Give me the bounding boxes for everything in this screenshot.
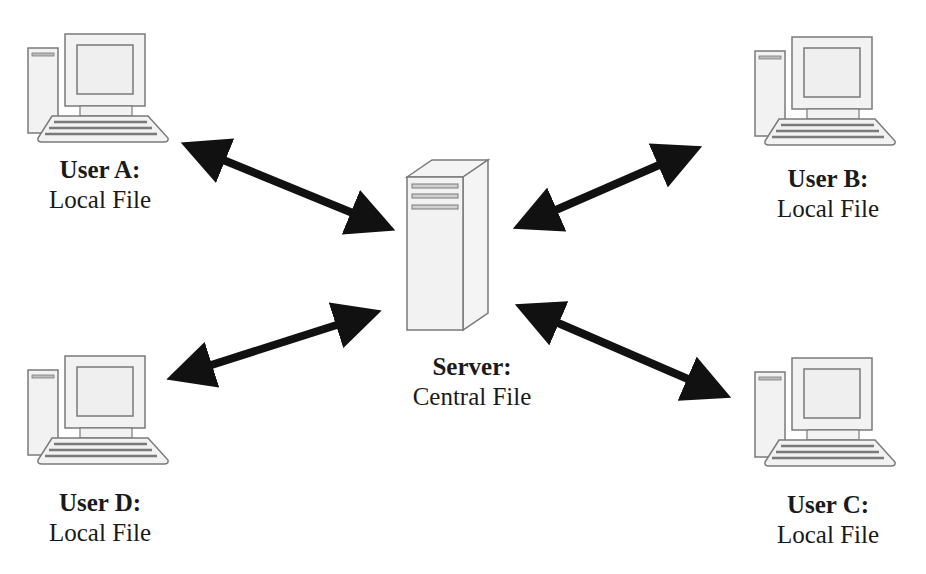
user-b-title: User B:: [728, 164, 926, 194]
user-b-subtitle: Local File: [728, 194, 926, 224]
computer-icon-user-c: [755, 358, 895, 466]
server-tower-icon: [407, 160, 488, 330]
user-d-label: User D: Local File: [0, 488, 200, 548]
user-c-label: User C: Local File: [728, 490, 926, 550]
user-a-title: User A:: [0, 155, 200, 185]
arrow-user-a-server: [194, 148, 382, 225]
server-subtitle: Central File: [372, 382, 572, 412]
user-b-label: User B: Local File: [728, 164, 926, 224]
server-label: Server: Central File: [372, 352, 572, 412]
arrow-user-b-server: [526, 152, 689, 223]
computer-icon-user-a: [28, 34, 168, 142]
user-d-title: User D:: [0, 488, 200, 518]
user-a-label: User A: Local File: [0, 155, 200, 215]
computer-icon-user-d: [28, 356, 168, 464]
computer-icon-user-b: [755, 37, 895, 145]
user-c-subtitle: Local File: [728, 520, 926, 550]
arrow-user-d-server: [180, 315, 368, 375]
server-title: Server:: [372, 352, 572, 382]
user-c-title: User C:: [728, 490, 926, 520]
user-a-subtitle: Local File: [0, 185, 200, 215]
user-d-subtitle: Local File: [0, 518, 200, 548]
